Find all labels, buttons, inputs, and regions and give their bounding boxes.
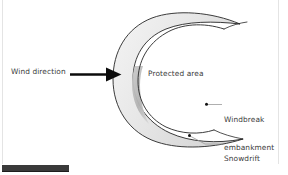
windbreak-inner-arc (138, 25, 224, 133)
label-snowdrift-embankment: Snowdrift embankment (224, 136, 274, 175)
label-snowdrift-line1: Snowdrift (224, 154, 274, 163)
diagram-figure: Wind direction Protected area Windbreak … (0, 0, 288, 175)
label-windbreak-line1: Windbreak (224, 115, 274, 124)
label-wind-direction: Wind direction (11, 67, 66, 76)
snowdrift-marker-dot (188, 134, 191, 137)
windbreak-marker-dot (205, 103, 208, 106)
label-protected-area: Protected area (148, 69, 204, 78)
bottom-progress-bar[interactable] (2, 165, 69, 172)
windbreak-leader-group (205, 103, 222, 106)
